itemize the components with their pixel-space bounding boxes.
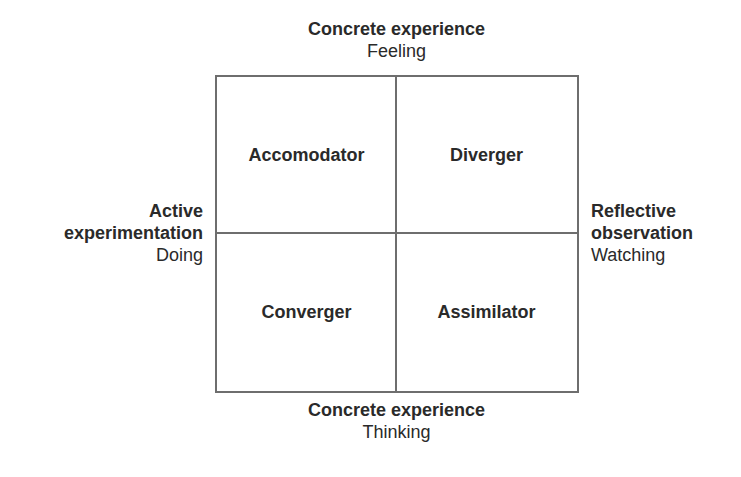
quadrant-converger: Converger: [217, 234, 396, 390]
quadrant-label: Converger: [261, 302, 351, 323]
right-axis-label: Reflective observation Watching: [591, 200, 741, 266]
top-axis-label: Concrete experience Feeling: [215, 18, 578, 62]
top-axis-subtitle: Feeling: [215, 40, 578, 62]
left-axis-title-line2: experimentation: [10, 222, 203, 244]
right-axis-title-line2: observation: [591, 222, 741, 244]
quadrant-label: Assimilator: [437, 302, 535, 323]
right-axis-subtitle: Watching: [591, 244, 741, 266]
bottom-axis-title: Concrete experience: [215, 399, 578, 421]
left-axis-subtitle: Doing: [10, 244, 203, 266]
top-axis-title: Concrete experience: [215, 18, 578, 40]
quadrant-diverger: Diverger: [397, 77, 576, 233]
quadrant-assimilator: Assimilator: [397, 234, 576, 390]
quadrant-label: Accomodator: [248, 145, 364, 166]
quadrant-grid: Accomodator Diverger Converger Assimilat…: [215, 75, 579, 393]
left-axis-title-line1: Active: [10, 200, 203, 222]
right-axis-title-line1: Reflective: [591, 200, 741, 222]
bottom-axis-subtitle: Thinking: [215, 421, 578, 443]
quadrant-label: Diverger: [450, 145, 523, 166]
left-axis-label: Active experimentation Doing: [10, 200, 203, 266]
bottom-axis-label: Concrete experience Thinking: [215, 399, 578, 443]
quadrant-accomodator: Accomodator: [217, 77, 396, 233]
